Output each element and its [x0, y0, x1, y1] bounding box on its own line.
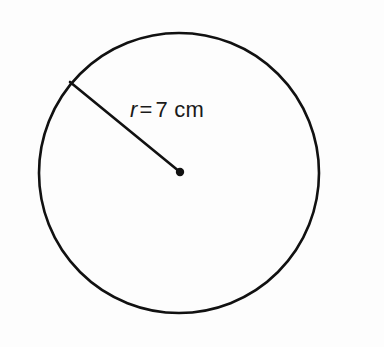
- circle-figure: [0, 0, 384, 347]
- radius-value: 7 cm: [156, 97, 204, 122]
- radius-symbol: r: [130, 97, 139, 122]
- radius-line: [70, 82, 180, 172]
- equals-sign: =: [139, 97, 156, 122]
- center-point-dot: [176, 168, 184, 176]
- diagram-canvas: r=7 cm: [0, 0, 384, 347]
- radius-label: r=7 cm: [130, 98, 204, 122]
